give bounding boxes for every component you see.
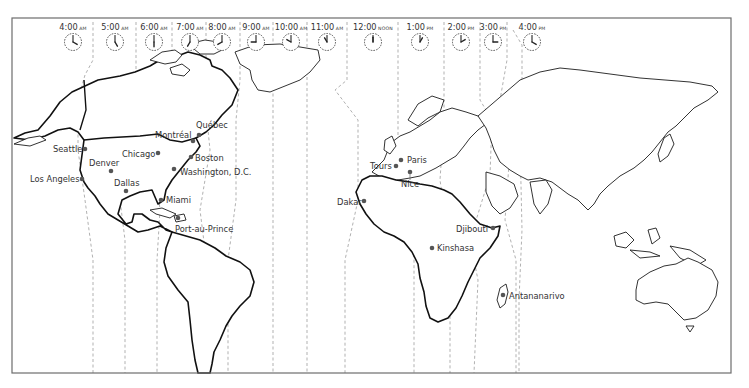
city-kinshasa[interactable]: Kinshasa [430, 243, 474, 253]
city-label: Seattle [53, 144, 82, 154]
city-label: Miami [166, 195, 191, 205]
city-label: Chicago [122, 149, 155, 159]
city-label: Djibouti [456, 224, 488, 234]
city-dot-icon[interactable] [362, 199, 367, 204]
city-dot-icon[interactable] [80, 177, 85, 182]
clock-c5am: 5:00AM [101, 22, 128, 51]
city-dot-icon[interactable] [124, 189, 129, 194]
city-label: Québec [196, 120, 228, 130]
city-chicago[interactable]: Chicago [122, 149, 160, 159]
city-label: Nice [401, 179, 419, 189]
clock-time-label: 2:00PM [447, 22, 474, 32]
australia [636, 258, 718, 320]
landmasses [14, 40, 718, 373]
north-america [14, 52, 238, 232]
city-label: Tours [369, 161, 392, 171]
clock-c4pm: 4:00PM [518, 22, 545, 51]
city-dot-icon[interactable] [430, 246, 435, 251]
clock-time-label: 10:00AM [275, 22, 308, 32]
city-los-angeles[interactable]: Los Angeles [30, 174, 84, 184]
clock-c4am: 4:00AM [59, 22, 86, 51]
clock-time-label: 5:00AM [101, 22, 128, 32]
clock-time-label: 4:00AM [59, 22, 86, 32]
clock-time-label: 3:00PM [479, 22, 506, 32]
world-time-zone-map: 4:00AM5:00AM6:00AM7:00AM8:00AM9:00AM10:0… [0, 0, 749, 388]
city-dot-icon[interactable] [491, 226, 496, 231]
city-label: Dallas [114, 178, 140, 188]
map-canvas: 4:00AM5:00AM6:00AM7:00AM8:00AM9:00AM10:0… [0, 0, 749, 388]
clock-time-label: 4:00PM [518, 22, 545, 32]
timezone-clocks: 4:00AM5:00AM6:00AM7:00AM8:00AM9:00AM10:0… [59, 22, 545, 51]
city-seattle[interactable]: Seattle [53, 144, 87, 154]
city-dot-icon[interactable] [394, 164, 399, 169]
city-dot-icon[interactable] [172, 167, 177, 172]
city-label: Los Angeles [30, 174, 80, 184]
city-washington-d-c-[interactable]: Washington, D.C. [172, 167, 252, 177]
clock-c6am: 6:00AM [140, 22, 167, 51]
city-antananarivo[interactable]: Antananarivo [501, 291, 565, 301]
city-dot-icon[interactable] [109, 169, 114, 174]
clock-time-label: 1:00PM [406, 22, 433, 32]
city-label: Boston [195, 153, 224, 163]
clock-time-label: 9:00AM [242, 22, 269, 32]
clock-c1pm: 1:00PM [406, 22, 433, 51]
clock-c12: 12:00NOON [353, 22, 393, 51]
city-label: Denver [89, 158, 120, 168]
city-label: Paris [407, 155, 427, 165]
clock-c3pm: 3:00PM [479, 22, 506, 51]
clock-time-label: 11:00AM [311, 22, 344, 32]
city-dot-icon[interactable] [501, 293, 506, 298]
clock-time-label: 12:00NOON [353, 22, 393, 32]
clock-time-label: 7:00AM [176, 22, 203, 32]
city-label: Washington, D.C. [180, 167, 252, 177]
city-qu-bec[interactable]: Québec [196, 120, 228, 137]
city-dot-icon[interactable] [176, 216, 181, 221]
city-label: Kinshasa [437, 243, 474, 253]
clock-c2pm: 2:00PM [447, 22, 474, 51]
city-dot-icon[interactable] [156, 151, 161, 156]
city-label: Port-au-Prince [175, 224, 233, 234]
city-dot-icon[interactable] [197, 133, 202, 138]
city-label: Dakar [337, 197, 362, 207]
city-dot-icon[interactable] [399, 158, 404, 163]
south-america [164, 232, 254, 373]
city-label: Antananarivo [509, 291, 565, 301]
city-dot-icon[interactable] [159, 198, 164, 203]
clock-time-label: 6:00AM [140, 22, 167, 32]
africa [356, 176, 500, 322]
city-label: Montréal [155, 130, 191, 140]
city-dot-icon[interactable] [83, 147, 88, 152]
clock-c11am: 11:00AM [311, 22, 344, 51]
clock-time-label: 8:00AM [208, 22, 235, 32]
city-dot-icon[interactable] [189, 155, 194, 160]
